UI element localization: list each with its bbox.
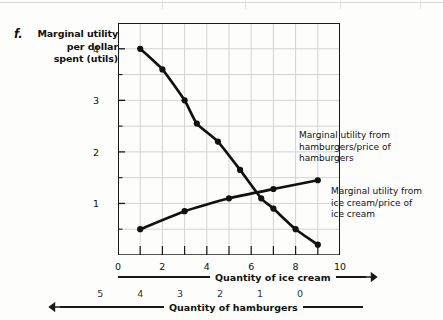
curve-hamburgers: [140, 180, 318, 229]
secondary-x-tick-label: 4: [130, 288, 150, 299]
axis-rule-left-2: [60, 306, 164, 308]
scan-artifact-tick: [245, 0, 246, 9]
data-point: [137, 46, 143, 52]
data-point: [293, 226, 299, 232]
y-axis-caption: f.Marginal utility per dollar spent (uti…: [10, 28, 118, 66]
secondary-x-tick-label: 2: [210, 288, 230, 299]
arrow-left-icon: [48, 302, 60, 312]
scan-artifact-line: [0, 2, 443, 3]
secondary-x-tick-label: 0: [290, 288, 310, 299]
secondary-axis-title: Quantity of hamburgers: [164, 302, 303, 313]
secondary-axis-title-row: Quantity of hamburgers: [48, 300, 388, 314]
y-tick-label: 2: [81, 146, 99, 157]
data-point: [315, 242, 321, 248]
data-point: [237, 167, 243, 173]
y-tick-label: 3: [81, 95, 99, 106]
y-tick-label: 1: [81, 198, 99, 209]
arrow-right-icon: [366, 272, 378, 282]
figure-item-letter: f.: [14, 28, 23, 41]
data-point: [270, 186, 276, 192]
y-axis-caption-text: Marginal utility per dollar spent (utils…: [37, 28, 118, 64]
y-tick-label: 4: [81, 43, 99, 54]
primary-axis-title: Quantity of ice cream: [210, 272, 336, 283]
axis-rule-left: [118, 276, 210, 278]
axis-rule-right: [336, 276, 366, 278]
data-point: [137, 226, 143, 232]
annotation-hamburgers: Marginal utility from hamburgers/price o…: [299, 130, 391, 165]
axis-rule-right-2: [303, 306, 363, 308]
data-point: [215, 138, 221, 144]
data-point: [270, 206, 276, 212]
annotation-ice-cream: Marginal utility from ice cream/price of…: [331, 186, 422, 221]
data-point: [315, 177, 321, 183]
secondary-x-tick-label: 1: [250, 288, 270, 299]
data-point: [159, 66, 165, 72]
secondary-x-tick-label: 5: [90, 288, 110, 299]
scan-artifact-tick: [420, 0, 421, 9]
scan-artifact-tick: [162, 0, 163, 9]
curve-ice-cream: [140, 49, 318, 245]
secondary-x-tick-label: 3: [170, 288, 190, 299]
data-point: [182, 208, 188, 214]
data-point: [258, 195, 264, 201]
primary-axis-title-row: Quantity of ice cream: [118, 270, 383, 284]
data-point: [182, 97, 188, 103]
data-point: [226, 195, 232, 201]
scan-artifact-tick: [340, 0, 341, 9]
data-point: [194, 120, 200, 126]
